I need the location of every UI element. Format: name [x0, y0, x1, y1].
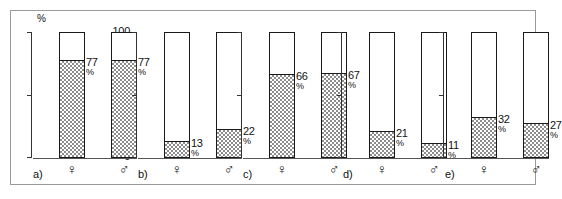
bar-value-number: 27	[550, 121, 562, 130]
bar-c-female	[269, 32, 295, 158]
bar-value-label: 32%	[498, 115, 510, 134]
y-axis	[136, 32, 137, 158]
panel-letter: a)	[33, 169, 43, 180]
chart-panel-d: 21%♀11%♂d)	[341, 11, 446, 186]
panel-letter: e)	[445, 169, 455, 180]
y-tick-50	[237, 95, 242, 96]
y-axis	[443, 32, 444, 158]
bar-value-number: 13	[191, 139, 203, 148]
axis-category-female-symbol: ♀	[269, 161, 295, 177]
bar-fill	[217, 129, 241, 157]
axis-category-male-symbol: ♂	[111, 161, 137, 177]
bar-value-label: 27%	[550, 121, 562, 140]
bar-fill	[60, 60, 84, 157]
bar-value-label: 77%	[86, 58, 98, 77]
bar-value-number: 66	[296, 72, 308, 81]
chart-panel-b: 13%♀22%♂b)	[136, 11, 241, 186]
bar-value-percent-sign: %	[396, 139, 408, 148]
y-tick-100	[27, 32, 32, 33]
baseline	[445, 158, 549, 159]
axis-category-male-symbol: ♂	[216, 161, 242, 177]
bar-value-label: 66%	[296, 72, 308, 91]
bar-value-number: 32	[498, 115, 510, 124]
y-tick-0	[132, 157, 137, 158]
axis-category-female-symbol: ♀	[164, 161, 190, 177]
y-axis-unit-label: %	[37, 14, 46, 24]
y-axis	[241, 32, 242, 158]
y-tick-100	[237, 32, 242, 33]
y-tick-50	[337, 95, 342, 96]
y-tick-0	[439, 157, 444, 158]
bar-value-percent-sign: %	[191, 149, 203, 158]
bar-value-label: 21%	[396, 129, 408, 148]
chart-panel-a: %10050077%♀77%♂a)	[31, 11, 136, 186]
baseline	[138, 158, 242, 159]
bar-fill	[112, 60, 136, 157]
bar-value-number: 21	[396, 129, 408, 138]
bar-fill	[370, 131, 394, 157]
baseline	[33, 158, 137, 159]
y-tick-100	[337, 32, 342, 33]
bar-b-female	[164, 32, 190, 158]
y-axis	[341, 32, 342, 158]
bar-fill	[270, 74, 294, 157]
baseline	[343, 158, 447, 159]
panel-letter: c)	[243, 169, 252, 180]
y-tick-50	[27, 95, 32, 96]
axis-category-female-symbol: ♀	[59, 161, 85, 177]
axis-category-female-symbol: ♀	[369, 161, 395, 177]
bar-value-label: 13%	[191, 139, 203, 158]
y-tick-0	[237, 157, 242, 158]
chart-panel-e: 32%♀27%♂e)	[443, 11, 548, 186]
bar-a-female	[59, 32, 85, 158]
bar-value-percent-sign: %	[550, 131, 562, 140]
bar-e-female	[471, 32, 497, 158]
y-tick-0	[27, 157, 32, 158]
y-tick-100	[132, 32, 137, 33]
axis-category-female-symbol: ♀	[471, 161, 497, 177]
bar-d-female	[369, 32, 395, 158]
bar-fill	[472, 117, 496, 157]
bar-e-male	[523, 32, 549, 158]
bar-value-number: 77	[86, 58, 98, 67]
y-tick-100	[439, 32, 444, 33]
panel-letter: d)	[343, 169, 353, 180]
baseline	[243, 158, 347, 159]
bar-fill	[165, 141, 189, 157]
axis-category-male-symbol: ♂	[523, 161, 549, 177]
panel-letter: b)	[138, 169, 148, 180]
y-tick-50	[132, 95, 137, 96]
bar-value-percent-sign: %	[296, 82, 308, 91]
bar-fill	[524, 123, 548, 157]
bar-value-percent-sign: %	[86, 68, 98, 77]
y-tick-50	[439, 95, 444, 96]
y-axis	[31, 32, 32, 158]
chart-panel-c: 66%♀67%♂c)	[241, 11, 346, 186]
y-tick-0	[337, 157, 342, 158]
figure-frame: %10050077%♀77%♂a)13%♀22%♂b)66%♀67%♂c)21%…	[10, 10, 536, 185]
bar-value-percent-sign: %	[498, 125, 510, 134]
